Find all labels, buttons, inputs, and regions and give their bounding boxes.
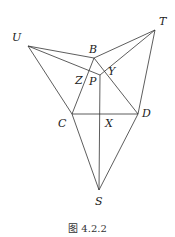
segment-CS (72, 114, 99, 190)
figure-caption: 图 4.2.2 (0, 220, 175, 235)
segment-UB (28, 46, 94, 58)
label-Y: Y (108, 66, 115, 77)
label-C: C (58, 118, 66, 129)
label-B: B (89, 44, 97, 55)
segment-PS (99, 75, 100, 190)
segment-BT (94, 30, 155, 58)
label-T: T (159, 16, 166, 27)
label-P: P (89, 76, 96, 87)
segment-TD (138, 30, 155, 114)
label-Z: Z (75, 75, 83, 86)
label-S: S (95, 196, 103, 207)
label-D: D (142, 108, 151, 119)
label-U: U (12, 32, 21, 43)
label-X: X (105, 118, 113, 129)
segment-BD (94, 58, 138, 114)
segment-UC (28, 46, 72, 114)
